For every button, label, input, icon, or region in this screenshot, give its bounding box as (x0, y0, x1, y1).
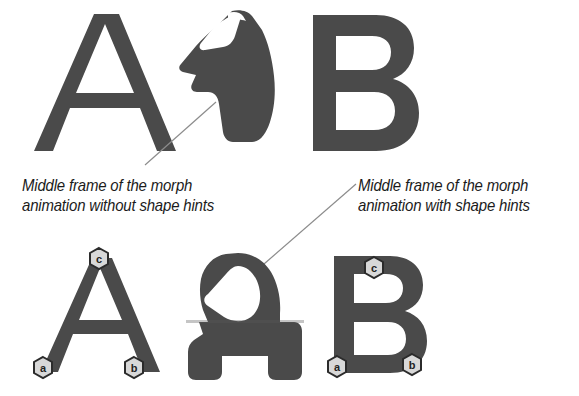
hint-marker-c-on-B-label: c (371, 262, 377, 274)
hint-marker-a-on-A: a (34, 357, 52, 378)
bottom-source-letter-A (41, 258, 160, 372)
hint-marker-b-on-A: b (125, 357, 143, 378)
caption-with-hints: Middle frame of the morph animation with… (358, 176, 530, 216)
top-target-letter-B (313, 15, 419, 151)
caption-without-hints: Middle frame of the morph animation with… (22, 176, 214, 216)
hint-marker-b-on-B: b (403, 354, 421, 375)
leader-with-hints (264, 184, 356, 264)
hint-marker-c-on-A: c (90, 248, 108, 269)
caption-with-hints-line2: animation with shape hints (358, 196, 530, 216)
hint-marker-a-on-A-label: a (40, 362, 47, 374)
hint-marker-a-on-B-label: a (334, 361, 341, 373)
hint-marker-b-on-B-label: b (409, 359, 416, 371)
hint-marker-a-on-B: a (328, 356, 346, 377)
caption-without-hints-line2: animation without shape hints (22, 196, 214, 216)
hint-marker-b-on-A-label: b (131, 362, 138, 374)
hint-marker-c-on-B: c (365, 257, 383, 278)
morph-figure: c a b c (0, 0, 579, 396)
top-source-letter-A (34, 14, 176, 151)
caption-without-hints-line1: Middle frame of the morph (22, 176, 214, 196)
caption-with-hints-line1: Middle frame of the morph (358, 176, 530, 196)
bottom-morph-frame-with-hints (186, 253, 304, 380)
hint-marker-c-on-A-label: c (96, 253, 102, 265)
